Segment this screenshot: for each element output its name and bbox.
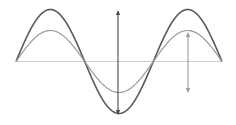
diagram-canvas	[0, 0, 236, 125]
sine-wave-diagram	[0, 0, 236, 125]
arrowhead-up-icon	[116, 10, 120, 15]
small-amplitude-arrow	[186, 32, 190, 93]
arrowhead-down-icon	[186, 88, 190, 93]
arrowhead-up-icon	[186, 32, 190, 37]
large-amplitude-arrow	[116, 10, 120, 115]
